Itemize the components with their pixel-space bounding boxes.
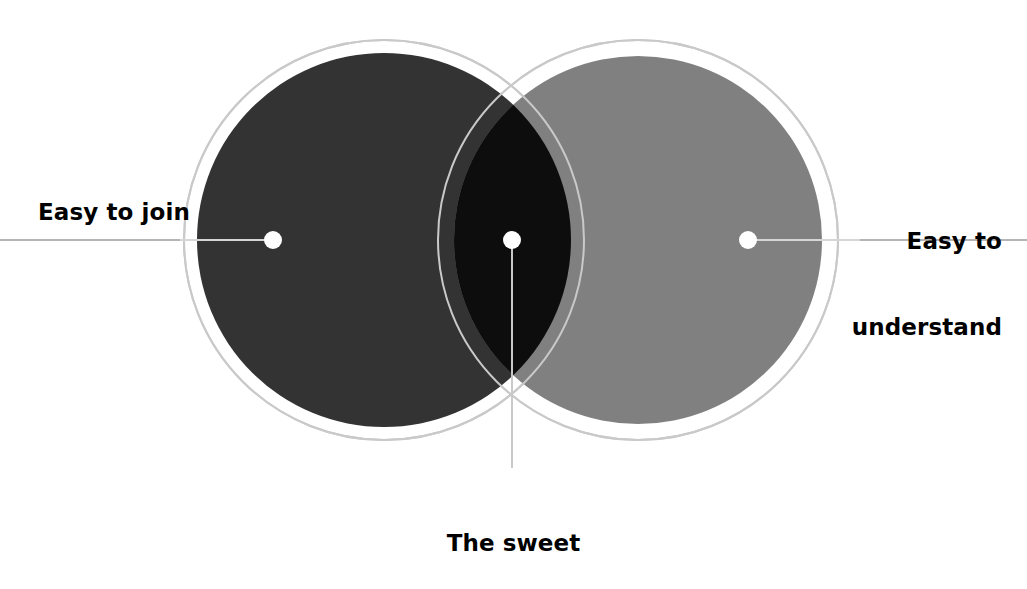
anchor-dot-center <box>503 231 521 249</box>
label-easy-to-join: Easy to join <box>38 198 190 227</box>
anchor-dot-left <box>264 231 282 249</box>
venn-diagram-root: Easy to join Easy to understand The swee… <box>0 0 1027 589</box>
label-easy-to-understand-line2: understand <box>852 313 1002 342</box>
label-easy-to-understand: Easy to understand <box>852 170 1002 398</box>
label-sweet-spot-line1: The sweet <box>0 529 1027 558</box>
anchor-dot-right <box>739 231 757 249</box>
label-sweet-spot: The sweet spot of accessibility <box>0 472 1027 589</box>
label-easy-to-understand-line1: Easy to <box>852 227 1002 256</box>
